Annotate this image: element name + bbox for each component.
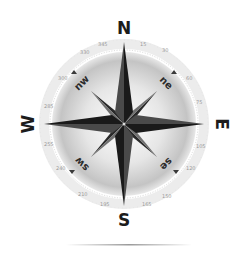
svg-text:60: 60: [186, 75, 192, 81]
label-east: E: [212, 118, 232, 130]
svg-text:30: 30: [162, 47, 168, 53]
label-north: N: [117, 18, 131, 38]
svg-text:285: 285: [44, 103, 54, 109]
svg-text:15: 15: [140, 41, 146, 47]
svg-text:195: 195: [100, 201, 110, 207]
ground-line: [66, 244, 192, 246]
svg-text:345: 345: [98, 41, 108, 47]
center-pin: [123, 123, 126, 126]
svg-text:120: 120: [186, 165, 196, 171]
svg-text:165: 165: [142, 201, 152, 207]
label-south: S: [118, 210, 130, 230]
compass-rose: 34515 33030 30060 28575 255105 240120 21…: [0, 0, 242, 266]
svg-text:210: 210: [78, 191, 88, 197]
svg-text:150: 150: [162, 193, 172, 199]
svg-text:240: 240: [56, 165, 66, 171]
svg-text:300: 300: [58, 75, 68, 81]
svg-text:330: 330: [80, 49, 90, 55]
svg-text:75: 75: [196, 99, 202, 105]
label-west: W: [18, 114, 38, 133]
svg-text:105: 105: [196, 143, 206, 149]
svg-text:255: 255: [44, 141, 54, 147]
